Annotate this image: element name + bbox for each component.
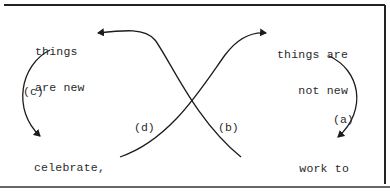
node-things-are-new: things are new [35, 22, 85, 118]
node-text: work to [245, 163, 349, 175]
node-text: celebrate, [34, 162, 119, 174]
edge-label-b: (b) [218, 121, 239, 134]
node-text: things are [270, 49, 348, 61]
edge-label-d: (d) [134, 121, 155, 134]
edge-label-a: (a) [333, 113, 354, 126]
node-celebrate-perpetuate-achievements: celebrate, perpetuate achievements [34, 138, 119, 193]
node-text: not new [270, 85, 348, 97]
arrow-b [98, 31, 241, 157]
cycle-diagram: things are new things are not new work t… [0, 0, 390, 193]
node-work-to-change-things: work to change things [245, 139, 349, 193]
node-things-are-not-new: things are not new [270, 25, 348, 121]
node-text: things [35, 46, 85, 58]
edge-label-c: (c) [23, 85, 44, 98]
